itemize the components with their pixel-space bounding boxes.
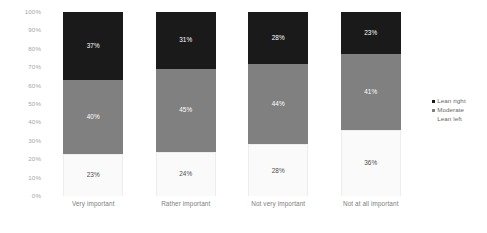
bar-segment-value-label: 45%	[179, 107, 192, 113]
legend-item-label: Lean left	[437, 116, 462, 122]
bar-segment-lean-left[interactable]: 24%	[156, 152, 216, 196]
y-axis-tick: 40%	[0, 119, 41, 125]
bar-segment-moderate[interactable]: 44%	[248, 64, 308, 145]
legend-swatch-icon	[432, 118, 435, 121]
bar-stack[interactable]: 37%40%23%	[63, 12, 123, 196]
bar-segment-value-label: 31%	[179, 37, 192, 43]
bar-segment-value-label: 28%	[272, 35, 285, 41]
bar-stack[interactable]: 31%45%24%	[156, 12, 216, 196]
y-axis-tick: 100%	[0, 9, 41, 15]
bar-segment-value-label: 23%	[364, 30, 377, 36]
bar-segment-lean-right[interactable]: 31%	[156, 12, 216, 69]
bar-stack[interactable]: 23%41%36%	[341, 12, 401, 196]
bar-segment-lean-right[interactable]: 23%	[341, 12, 401, 54]
legend-swatch-icon	[432, 100, 435, 103]
x-axis-category-label: Not very important	[228, 201, 328, 207]
bar-segment-value-label: 24%	[179, 171, 192, 177]
bar-segment-lean-right[interactable]: 28%	[248, 12, 308, 64]
x-axis-category-label: Rather important	[136, 201, 236, 207]
y-axis-tick: 0%	[0, 193, 41, 199]
legend-item[interactable]: Lean left	[432, 115, 487, 124]
bar-segment-value-label: 36%	[364, 160, 377, 166]
x-axis-category-label: Very important	[43, 201, 143, 207]
bar-segment-lean-left[interactable]: 36%	[341, 130, 401, 196]
y-axis-tick: 30%	[0, 138, 41, 144]
bar-segment-moderate[interactable]: 41%	[341, 54, 401, 129]
bar-segment-value-label: 23%	[87, 172, 100, 178]
chart-legend: Lean rightModerateLean left	[432, 97, 487, 124]
y-axis-tick: 90%	[0, 27, 41, 33]
legend-item[interactable]: Moderate	[432, 106, 487, 115]
bar-segment-value-label: 40%	[87, 114, 100, 120]
bar-segment-lean-left[interactable]: 23%	[63, 154, 123, 196]
stacked-bar-chart: 100%90%80%70%60%50%40%30%20%10%0% 37%40%…	[0, 0, 487, 233]
y-axis-tick: 10%	[0, 174, 41, 180]
bar-segment-moderate[interactable]: 45%	[156, 69, 216, 152]
bar-stack[interactable]: 28%44%28%	[248, 12, 308, 196]
bar-segment-value-label: 41%	[364, 89, 377, 95]
bar-segment-lean-right[interactable]: 37%	[63, 12, 123, 80]
y-axis: 100%90%80%70%60%50%40%30%20%10%0%	[0, 12, 41, 196]
x-axis-category-label: Not at all important	[321, 201, 421, 207]
y-axis-tick: 70%	[0, 64, 41, 70]
bar-segment-lean-left[interactable]: 28%	[248, 144, 308, 196]
y-axis-tick: 20%	[0, 156, 41, 162]
bar-segment-value-label: 28%	[272, 168, 285, 174]
plot-area: 37%40%23%31%45%24%28%44%28%23%41%36%	[47, 12, 417, 196]
bar-segment-value-label: 44%	[272, 101, 285, 107]
bar-segment-moderate[interactable]: 40%	[63, 80, 123, 154]
y-axis-tick: 60%	[0, 82, 41, 88]
legend-swatch-icon	[432, 109, 435, 112]
legend-item-label: Lean right	[437, 98, 466, 104]
bar-segment-value-label: 37%	[87, 43, 100, 49]
y-axis-tick: 80%	[0, 46, 41, 52]
y-axis-tick: 50%	[0, 101, 41, 107]
legend-item-label: Moderate	[437, 107, 464, 113]
legend-item[interactable]: Lean right	[432, 97, 487, 106]
